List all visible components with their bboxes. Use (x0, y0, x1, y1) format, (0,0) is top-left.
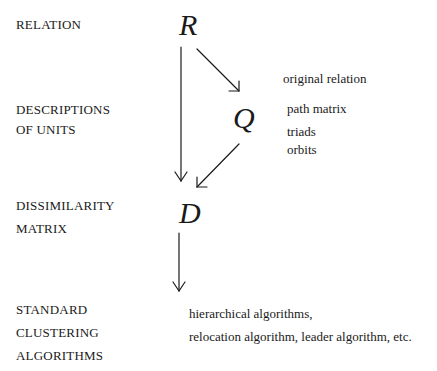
arrow-r-to-q (197, 49, 239, 91)
arrow-r-to-d (175, 47, 187, 181)
arrows (0, 0, 437, 371)
arrow-d-to-algorithms (173, 233, 185, 291)
caption-faint (95, 362, 315, 371)
arrow-q-to-d (197, 144, 239, 187)
